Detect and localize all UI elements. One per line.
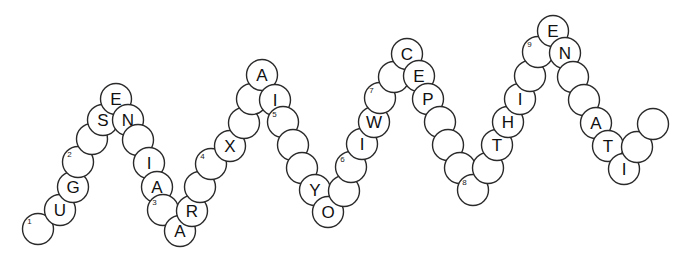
- residue-index-marker: 9: [527, 40, 532, 49]
- residue-label: E: [547, 22, 558, 41]
- residue-label: T: [492, 136, 502, 155]
- residue-index-marker: 3: [152, 198, 157, 207]
- residue-chain-diagram: 1UG2SENIA3AR4XAI5YO6IW7CEP8THI9ENATI: [0, 0, 685, 259]
- residue-node[interactable]: [638, 109, 669, 140]
- residue-label: X: [224, 137, 235, 156]
- residue-index-marker: 6: [340, 155, 345, 164]
- chain-svg: 1UG2SENIA3AR4XAI5YO6IW7CEP8THI9ENATI: [0, 0, 685, 259]
- residue-label: G: [66, 178, 79, 197]
- residue-label: I: [147, 154, 152, 173]
- residue-label: R: [186, 202, 198, 221]
- residue-index-marker: 4: [200, 152, 205, 161]
- residue-label: W: [366, 113, 382, 132]
- residue-circle[interactable]: [638, 109, 669, 140]
- residue-index-marker: 1: [27, 217, 32, 226]
- residue-label: N: [559, 44, 571, 63]
- residues-layer: 1UG2SENIA3AR4XAI5YO6IW7CEP8THI9ENATI: [23, 16, 669, 247]
- residue-label: Y: [309, 181, 320, 200]
- residue-label: A: [256, 66, 268, 85]
- residue-index-marker: 8: [462, 178, 467, 187]
- residue-label: I: [518, 90, 523, 109]
- residue-index-marker: 5: [272, 110, 277, 119]
- residue-index-marker: 2: [67, 150, 72, 159]
- residue-label: S: [97, 111, 108, 130]
- residue-label: I: [360, 135, 365, 154]
- residue-label: C: [401, 45, 413, 64]
- residue-label: E: [413, 67, 424, 86]
- residue-index-marker: 7: [369, 86, 374, 95]
- residue-label: P: [422, 90, 433, 109]
- residue-label: H: [502, 113, 514, 132]
- residue-label: I: [622, 160, 627, 179]
- residue-label: T: [603, 137, 613, 156]
- residue-label: U: [54, 201, 66, 220]
- residue-label: O: [321, 203, 334, 222]
- residue-label: A: [590, 114, 602, 133]
